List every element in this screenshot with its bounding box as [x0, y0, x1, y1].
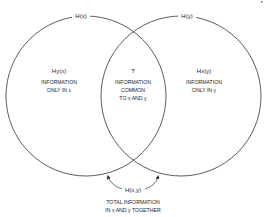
region-common-line2: COMMON [121, 87, 145, 93]
joint-caption-line1: TOTAL INFORMATION [106, 199, 160, 205]
region-only-x: Hy(x) INFORMATION ONLY IN x [41, 68, 77, 93]
region-common-symbol: T [131, 68, 135, 74]
circle-x-label: H(x) [75, 13, 86, 19]
region-only-y-line1: INFORMATION [186, 79, 222, 85]
region-common-line3: TO x AND y [119, 95, 147, 101]
scan-mark [261, 1, 263, 3]
region-only-x-symbol: Hy(x) [52, 68, 66, 74]
joint-label: H(x,y) [125, 187, 141, 193]
venn-diagram: H(x) H(y) Hy(x) INFORMATION ONLY IN x T … [0, 0, 265, 217]
joint-arc-icon [108, 177, 122, 189]
region-only-x-line2: ONLY IN x [47, 87, 72, 93]
region-only-y-symbol: Hx(y) [197, 68, 211, 74]
joint-arc-icon-right [145, 177, 158, 189]
region-common: T INFORMATION COMMON TO x AND y [115, 68, 151, 101]
region-only-y: Hx(y) INFORMATION ONLY IN y [186, 68, 222, 93]
region-only-y-line2: ONLY IN y [192, 87, 217, 93]
region-common-line1: INFORMATION [115, 79, 151, 85]
joint-caption-line2: IN x AND y TOGETHER [105, 207, 161, 213]
region-only-x-line1: INFORMATION [41, 79, 77, 85]
circle-y-label: H(y) [181, 13, 192, 19]
